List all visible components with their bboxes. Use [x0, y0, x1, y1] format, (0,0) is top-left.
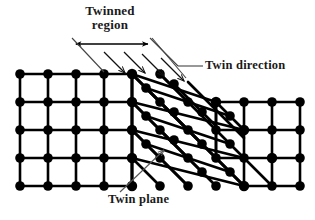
label-twinned-region-line2: region — [62, 18, 158, 32]
span-leader-left — [72, 38, 104, 72]
label-twin-plane: Twin plane — [108, 193, 169, 206]
twinning-diagram-figure: Twinned region Twin direction Twin plane — [0, 0, 315, 220]
shear-direction-arrow — [104, 52, 125, 73]
label-twinned-region-line1: Twinned — [62, 4, 158, 18]
label-twinned-region: Twinned region — [62, 4, 158, 31]
label-twin-direction: Twin direction — [205, 59, 285, 72]
crystal-lattice-drawing — [0, 0, 315, 220]
